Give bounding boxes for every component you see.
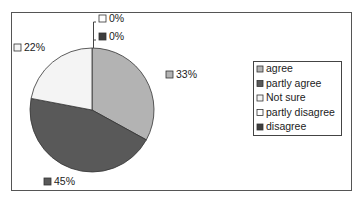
legend-swatch-disagree (257, 124, 263, 130)
data-label-disagree: 0% (109, 30, 124, 42)
legend-entry-disagree: disagree (266, 120, 306, 132)
legend-entry-not-sure: Not sure (266, 91, 306, 103)
legend-swatch-agree (257, 66, 263, 72)
data-label-swatch-partly-agree (44, 178, 51, 185)
data-label-partly-disagree: 0% (109, 12, 124, 24)
legend-entry-partly-disagree: partly disagree (266, 106, 335, 118)
legend-entry-partly-agree: partly agree (266, 77, 322, 89)
data-label-swatch-partly-disagree (99, 15, 106, 22)
legend-swatch-not-sure (257, 95, 263, 101)
legend-swatch-partly-disagree (257, 110, 263, 116)
data-label-swatch-agree (166, 71, 173, 78)
data-label-partly-agree: 45% (54, 175, 75, 187)
legend-entry-agree: agree (266, 62, 293, 74)
pie-chart: 33%45%22%0%0% agreepartly agreeNot surep… (0, 0, 360, 201)
data-label-swatch-not-sure (14, 44, 21, 51)
data-label-swatch-disagree (99, 33, 106, 40)
data-label-agree: 33% (176, 68, 197, 80)
data-label-not-sure: 22% (24, 41, 45, 53)
legend-swatch-partly-agree (257, 81, 263, 87)
